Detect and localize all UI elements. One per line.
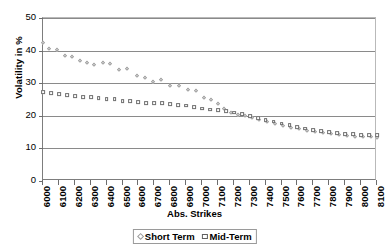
gridline-20 (43, 116, 375, 117)
legend-label-mid-term: Mid-Term (210, 231, 252, 242)
y-tick-mark-50 (39, 18, 43, 19)
x-tick-label-8100: 8100 (375, 186, 386, 207)
y-tick-mark-20 (39, 116, 43, 117)
data-point (176, 103, 180, 107)
data-point (152, 101, 156, 105)
data-point (73, 94, 77, 98)
x-tick-mark-6700 (153, 180, 154, 185)
data-point (351, 132, 355, 136)
gridline-10 (43, 148, 375, 149)
data-point (232, 111, 236, 115)
data-point (77, 59, 82, 64)
data-point (367, 133, 371, 137)
data-point (89, 95, 93, 99)
volatility-skew-chart: Volatility in % 50403020100 600061006200… (0, 0, 389, 251)
x-tick-label-6500: 6500 (120, 186, 131, 207)
legend-item-mid-term: Mid-Term (202, 231, 252, 242)
x-tick-label-7400: 7400 (263, 186, 274, 207)
x-tick-label-6900: 6900 (184, 186, 195, 207)
data-point (311, 128, 315, 132)
x-tick-label-8000: 8000 (359, 186, 370, 207)
data-point (81, 95, 85, 99)
x-tick-mark-6900 (185, 180, 186, 185)
data-point (192, 105, 196, 109)
y-tick-label-10: 10 (10, 142, 36, 152)
chart-legend: Short Term Mid-Term (132, 229, 256, 244)
data-point (216, 108, 220, 112)
data-point (65, 93, 69, 97)
x-tick-label-7900: 7900 (343, 186, 354, 207)
x-tick-mark-7600 (296, 180, 297, 185)
x-axis-title: Abs. Strikes (0, 208, 389, 219)
data-point (272, 120, 276, 124)
x-tick-label-7000: 7000 (200, 186, 211, 207)
data-point (100, 61, 105, 66)
x-tick-mark-6200 (74, 180, 75, 185)
data-point (335, 131, 339, 135)
data-point (201, 96, 206, 101)
x-tick-label-6200: 6200 (72, 186, 83, 207)
data-point (280, 122, 284, 126)
data-point (160, 102, 164, 106)
diamond-marker-icon (136, 233, 144, 241)
data-point (129, 99, 133, 103)
data-point (125, 67, 130, 72)
x-tick-mark-8100 (376, 180, 377, 185)
data-point (304, 127, 308, 131)
x-tick-label-6000: 6000 (41, 186, 52, 207)
data-point (224, 109, 228, 113)
x-tick-label-7300: 7300 (247, 186, 258, 207)
x-axis-tick-labels: 6000610062006300640065006600670068006900… (42, 186, 376, 228)
data-point (117, 68, 122, 73)
x-tick-mark-7300 (249, 180, 250, 185)
square-marker-icon (202, 234, 208, 240)
y-tick-label-40: 40 (10, 45, 36, 55)
data-point (185, 88, 190, 93)
data-point (158, 78, 163, 83)
x-tick-label-6400: 6400 (104, 186, 115, 207)
x-tick-mark-6400 (106, 180, 107, 185)
data-point (41, 90, 45, 94)
data-point (296, 125, 300, 129)
data-point (319, 129, 323, 133)
x-tick-mark-6800 (169, 180, 170, 185)
x-tick-label-7100: 7100 (215, 186, 226, 207)
data-point (375, 133, 379, 137)
x-tick-label-7700: 7700 (311, 186, 322, 207)
x-tick-mark-6600 (137, 180, 138, 185)
data-point (49, 91, 53, 95)
legend-item-short-term: Short Term (137, 231, 194, 242)
data-point (84, 60, 89, 65)
data-point (41, 41, 46, 46)
data-point (107, 61, 112, 66)
x-tick-mark-6500 (122, 180, 123, 185)
x-tick-label-6600: 6600 (136, 186, 147, 207)
x-tick-label-7600: 7600 (295, 186, 306, 207)
plot-area (42, 17, 376, 180)
data-point (121, 99, 125, 103)
x-tick-mark-7800 (328, 180, 329, 185)
data-point (359, 133, 363, 137)
data-point (216, 102, 221, 107)
data-point (168, 84, 173, 89)
data-point (144, 101, 148, 105)
x-tick-mark-7400 (265, 180, 266, 185)
x-tick-label-6800: 6800 (168, 186, 179, 207)
y-tick-label-30: 30 (10, 77, 36, 87)
data-point (208, 108, 212, 112)
x-tick-label-7800: 7800 (327, 186, 338, 207)
x-tick-label-6100: 6100 (56, 186, 67, 207)
data-point (57, 92, 61, 96)
x-tick-mark-7900 (344, 180, 345, 185)
x-tick-label-7200: 7200 (231, 186, 242, 207)
x-tick-mark-7100 (217, 180, 218, 185)
y-tick-mark-30 (39, 83, 43, 84)
data-point (256, 116, 260, 120)
data-point (184, 104, 188, 108)
data-point (327, 130, 331, 134)
data-point (91, 62, 96, 67)
x-tick-mark-7000 (201, 180, 202, 185)
x-tick-label-6700: 6700 (152, 186, 163, 207)
x-tick-mark-7200 (233, 180, 234, 185)
legend-label-short-term: Short Term (145, 231, 195, 242)
